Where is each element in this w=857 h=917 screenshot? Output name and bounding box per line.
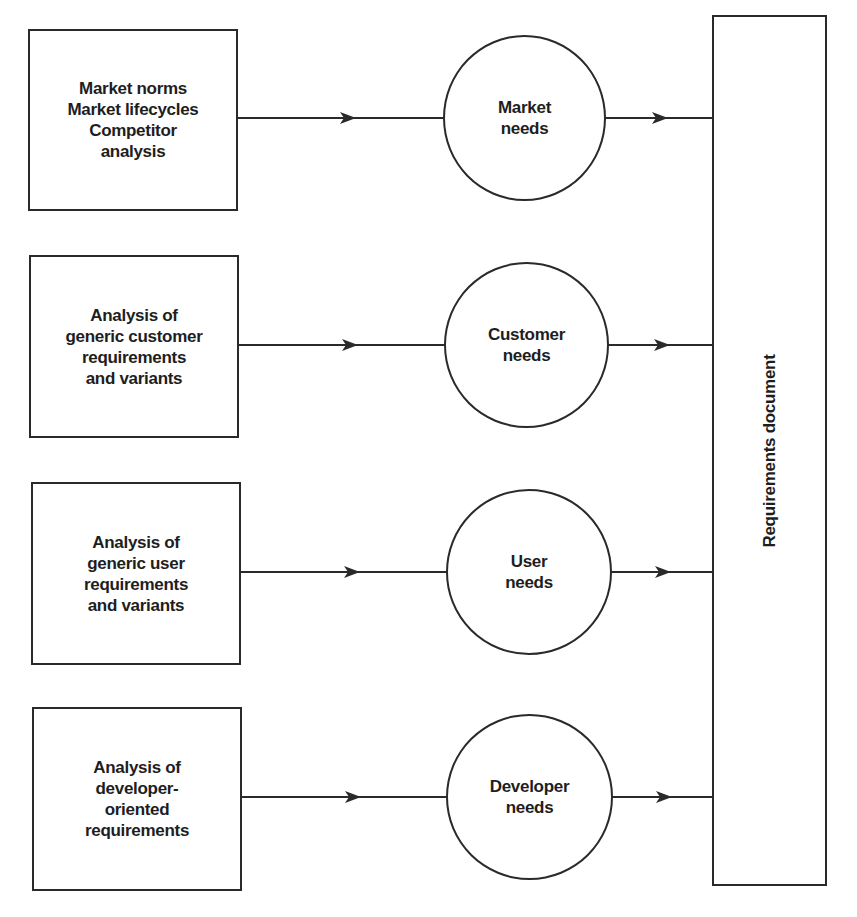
requirements-document-box: Requirements document (712, 15, 827, 886)
source-text-line: generic customer (66, 326, 203, 347)
source-box-market: Market norms Market lifecycles Competito… (28, 29, 238, 211)
source-text-line: and variants (86, 368, 183, 389)
need-text-line: Customer (488, 324, 565, 345)
source-text-line: Analysis of (90, 305, 177, 326)
source-text-line: developer- (96, 778, 179, 799)
source-text-line: analysis (101, 141, 166, 162)
arrow-icon (344, 566, 360, 578)
need-text-line: Developer (490, 776, 570, 797)
need-circle-developer: Developer needs (446, 714, 613, 880)
source-text-line: requirements (85, 820, 189, 841)
arrow-icon (342, 339, 358, 351)
source-text-line: Analysis of (92, 532, 179, 553)
source-box-developer: Analysis of developer- oriented requirem… (32, 707, 242, 891)
source-text-line: requirements (84, 574, 188, 595)
requirements-document-label: Requirements document (760, 354, 780, 547)
source-box-user: Analysis of generic user requirements an… (31, 482, 241, 665)
source-text-line: Competitor (89, 120, 177, 141)
arrow-icon (654, 339, 670, 351)
source-text-line: oriented (105, 799, 170, 820)
arrow-icon (655, 566, 671, 578)
need-text-line: needs (505, 572, 553, 593)
need-text-line: needs (506, 797, 554, 818)
need-circle-customer: Customer needs (444, 262, 609, 428)
source-text-line: Market norms (79, 78, 187, 99)
source-box-customer: Analysis of generic customer requirement… (29, 255, 239, 438)
source-text-line: and variants (88, 595, 185, 616)
need-circle-user: User needs (446, 489, 612, 655)
need-text-line: needs (503, 345, 551, 366)
arrow-icon (656, 791, 672, 803)
source-text-line: requirements (82, 347, 186, 368)
source-text-line: Analysis of (93, 757, 180, 778)
need-text-line: needs (501, 118, 549, 139)
source-text-line: generic user (87, 553, 185, 574)
need-circle-market: Market needs (443, 35, 606, 201)
need-text-line: Market (498, 97, 551, 118)
arrow-icon (652, 112, 668, 124)
source-text-line: Market lifecycles (68, 99, 199, 120)
need-text-line: User (511, 551, 548, 572)
arrow-icon (345, 791, 361, 803)
arrow-icon (340, 112, 356, 124)
